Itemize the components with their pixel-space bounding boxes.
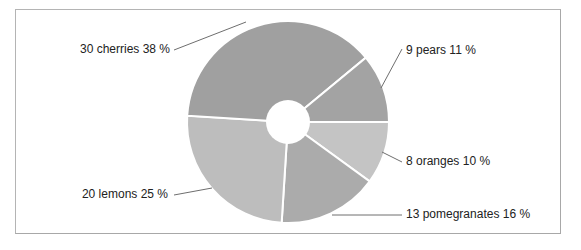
label-oranges: 8 oranges 10 %	[406, 154, 490, 168]
donut-chart: 30 cherries 38 % 9 pears 11 % 8 oranges …	[0, 0, 581, 250]
leader-line-lemons	[174, 188, 212, 195]
label-pomegranates: 13 pomegranates 16 %	[406, 207, 530, 221]
label-pears: 9 pears 11 %	[406, 43, 476, 57]
label-lemons: 20 lemons 25 %	[82, 187, 168, 201]
leader-line-pears	[381, 49, 402, 88]
donut-hole	[266, 100, 310, 144]
label-cherries: 30 cherries 38 %	[80, 42, 170, 56]
leader-line-oranges	[382, 152, 402, 162]
